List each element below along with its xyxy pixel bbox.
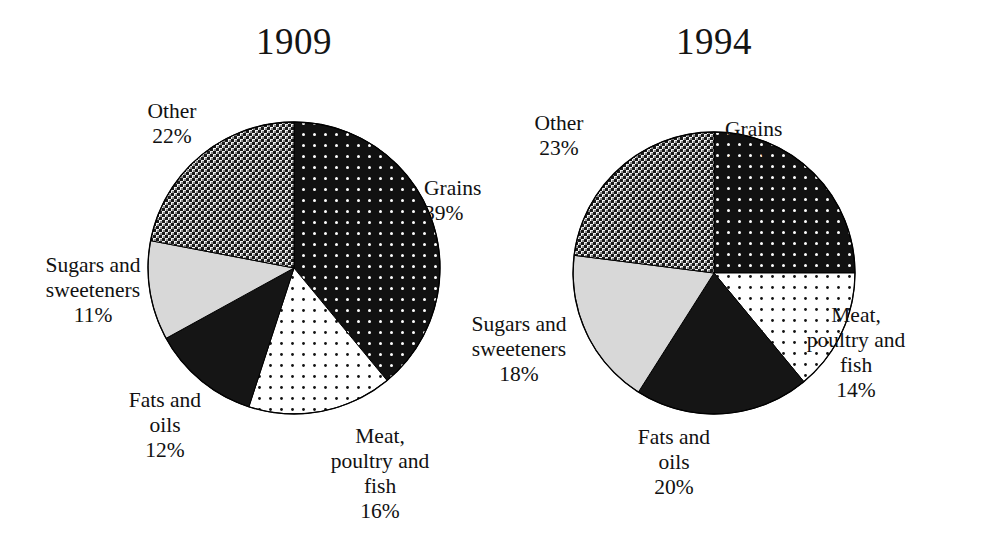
slice-label-fats-1909: Fats and oils 12% bbox=[105, 388, 225, 463]
chart-title-1909: 1909 bbox=[164, 22, 424, 62]
slice-label-grains-1994: Grains 25% bbox=[725, 117, 815, 167]
slice-label-other-1994: Other 23% bbox=[499, 111, 619, 161]
slice-label-sugars-1909: Sugars and sweeteners 11% bbox=[18, 253, 168, 328]
slice-label-other-1909: Other 22% bbox=[112, 99, 232, 149]
slice-label-meat-1994: Meat, poultry and fish 14% bbox=[786, 303, 926, 403]
pie-chart-1909: 1909 Grains 39% Meat, poultry and fish 1… bbox=[0, 0, 493, 554]
chart-title-1994: 1994 bbox=[584, 22, 844, 62]
pie-graphic-1909 bbox=[144, 118, 444, 418]
slice-label-sugars-1994: Sugars and sweeteners 18% bbox=[444, 312, 594, 387]
pie-chart-1994: 1994 Grains 25% Meat, poultry and fish 1… bbox=[494, 0, 987, 554]
slice-label-fats-1994: Fats and oils 20% bbox=[614, 425, 734, 500]
slice-label-meat-1909: Meat, poultry and fish 16% bbox=[310, 424, 450, 524]
slice-label-grains-1909: Grains 39% bbox=[424, 176, 504, 226]
